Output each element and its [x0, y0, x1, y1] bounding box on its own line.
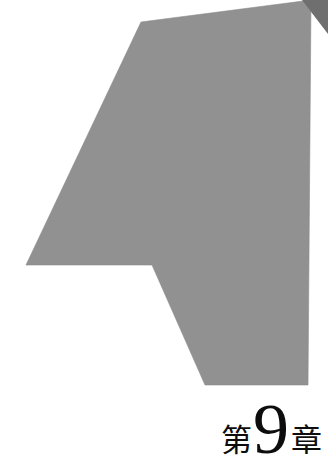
chapter-opener-page: 第 9 章: [0, 0, 328, 465]
chevron-mark-shape: [26, 0, 311, 385]
chevron-mark-layer: [0, 0, 328, 465]
